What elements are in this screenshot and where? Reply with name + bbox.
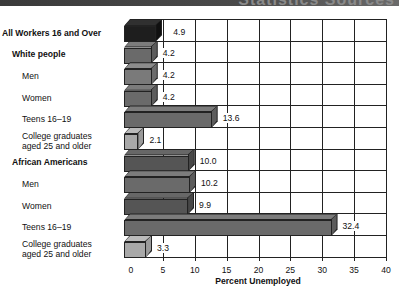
category-label: College graduatesaged 25 and older: [22, 131, 92, 151]
bar-front-face: [124, 48, 152, 64]
bar-front-face: [124, 91, 152, 107]
value-label: 4.2: [162, 48, 176, 58]
category-label: All Workers 16 and Over: [2, 28, 101, 38]
value-label: 32.4: [342, 221, 361, 231]
bar-front-face: [124, 177, 190, 193]
category-label-line2: aged 25 and older: [22, 141, 91, 151]
x-tick-label: 15: [222, 265, 232, 275]
value-label: 9.9: [198, 200, 212, 210]
value-label: 3.3: [156, 243, 170, 253]
bar-front-face: [124, 69, 152, 85]
category-label: White people: [12, 49, 65, 59]
gridline-horizontal: [133, 84, 386, 85]
bar-front-face: [124, 242, 146, 258]
x-tick-label: 0: [129, 265, 134, 275]
category-label: Teens 16–19: [22, 222, 71, 232]
value-label: 13.6: [222, 113, 241, 123]
header-title: Statistics Sources: [238, 0, 395, 9]
x-tick-label: 30: [317, 265, 327, 275]
value-label: 4.9: [172, 27, 186, 37]
bar-front-face: [124, 220, 332, 236]
category-label: Men: [22, 71, 39, 81]
x-tick-label: 10: [190, 265, 200, 275]
category-label: Women: [22, 93, 51, 103]
x-tick-label: 20: [254, 265, 264, 275]
value-label: 10.2: [200, 178, 219, 188]
gridline-vertical: [386, 19, 387, 261]
x-axis-label: Percent Unemployed: [215, 276, 300, 286]
bar-front-face: [124, 134, 138, 150]
value-label: 4.2: [162, 70, 176, 80]
category-label: African Americans: [12, 157, 88, 167]
bar-front-face: [124, 199, 188, 215]
x-tick-label: 35: [349, 265, 359, 275]
bar-front-face: [124, 112, 212, 128]
value-label: 10.0: [199, 156, 218, 166]
x-tick-label: 40: [381, 265, 391, 275]
gridline-horizontal: [133, 257, 386, 258]
category-label-line2: aged 25 and older: [22, 249, 91, 259]
category-label: Women: [22, 201, 51, 211]
category-label: Teens 16–19: [22, 114, 71, 124]
bar-front-face: [124, 26, 156, 42]
header-bar: Statistics Sources: [0, 0, 399, 6]
value-label: 2.1: [148, 135, 162, 145]
category-label: Men: [22, 179, 39, 189]
bar-top-face: [124, 170, 196, 177]
gridline-horizontal: [133, 62, 386, 63]
x-tick-label: 5: [160, 265, 165, 275]
bar-top-face: [124, 192, 194, 199]
value-label: 4.2: [162, 92, 176, 102]
gridline-horizontal: [133, 19, 386, 20]
bar-top-face: [124, 149, 195, 156]
bar-top-face: [124, 213, 338, 220]
bar-front-face: [124, 156, 189, 172]
x-tick-label: 25: [286, 265, 296, 275]
category-label-line1: College graduates: [22, 131, 92, 141]
gridline-horizontal: [133, 41, 386, 42]
category-label: College graduatesaged 25 and older: [22, 239, 92, 259]
category-label-line1: College graduates: [22, 239, 92, 249]
bar-top-face: [124, 105, 218, 112]
